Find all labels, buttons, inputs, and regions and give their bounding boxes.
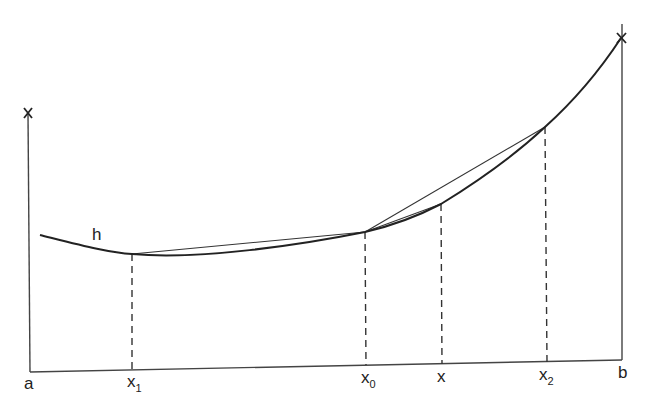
label-x0: x0 — [361, 368, 376, 390]
label-a: a — [24, 374, 34, 393]
chord-x0-x — [365, 204, 441, 232]
curve-h — [40, 38, 621, 255]
dashed-line-x — [441, 204, 442, 364]
dashed-line-x0 — [365, 232, 366, 365]
function-diagram: h a x1 x0 x x2 b — [0, 0, 650, 420]
curve-label-h: h — [92, 225, 101, 244]
left-axis — [28, 114, 30, 372]
dashed-line-x2 — [545, 127, 547, 362]
baseline — [30, 360, 622, 372]
chord-x0-x2 — [365, 127, 545, 232]
label-b: b — [618, 363, 627, 382]
label-x2: x2 — [539, 365, 554, 387]
label-x1: x1 — [127, 372, 142, 394]
label-x: x — [437, 367, 446, 386]
